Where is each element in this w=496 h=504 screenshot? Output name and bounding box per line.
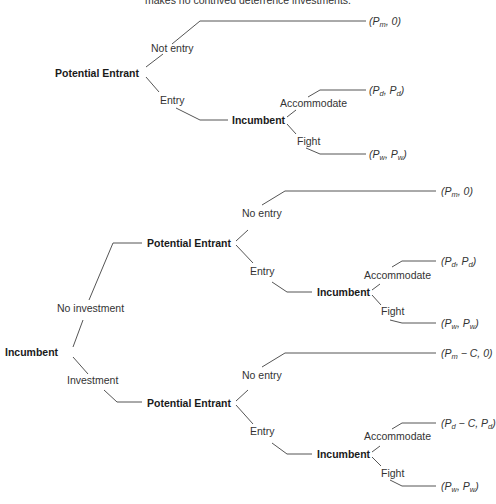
label-entry: Entry bbox=[160, 94, 185, 106]
node-potential-entrant-inv: Potential Entrant bbox=[147, 397, 231, 409]
game-tree-figure: makes no contrived deterrence investment… bbox=[0, 0, 496, 504]
payoff-fight-inv: (Pw, Pw) bbox=[441, 480, 479, 496]
payoff-fight-noinv: (Pw, Pw) bbox=[441, 317, 479, 333]
payoff-accommodate-noinv: (Pd, Pd) bbox=[441, 255, 476, 271]
payoff-no-entry-inv: (Pm − C, 0) bbox=[441, 347, 493, 363]
node-incumbent-noinv: Incumbent bbox=[317, 286, 370, 298]
label-no-entry-noinv: No entry bbox=[242, 207, 282, 219]
label-accommodate-inv: Accommodate bbox=[364, 430, 431, 442]
payoff-accommodate: (Pd, Pd) bbox=[369, 84, 404, 100]
edge-entry bbox=[146, 77, 228, 120]
edge-no-investment bbox=[73, 243, 142, 347]
label-investment: Investment bbox=[67, 374, 118, 386]
payoff-no-entry-noinv: (Pm, 0) bbox=[441, 185, 473, 201]
label-fight: Fight bbox=[297, 135, 320, 147]
node-incumbent-top: Incumbent bbox=[232, 114, 285, 126]
label-no-investment: No investment bbox=[57, 302, 124, 314]
label-accommodate: Accommodate bbox=[280, 97, 347, 109]
payoff-fight: (Pw, Pw) bbox=[369, 148, 407, 164]
label-not-entry: Not entry bbox=[151, 42, 194, 54]
node-incumbent-root: Incumbent bbox=[5, 346, 58, 358]
label-fight-noinv: Fight bbox=[381, 305, 404, 317]
node-potential-entrant-top: Potential Entrant bbox=[55, 67, 139, 79]
label-no-entry-inv: No entry bbox=[242, 369, 282, 381]
node-incumbent-inv: Incumbent bbox=[317, 448, 370, 460]
label-entry-inv: Entry bbox=[250, 425, 275, 437]
payoff-accommodate-inv: (Pd − C, Pd) bbox=[441, 417, 496, 433]
label-fight-inv: Fight bbox=[381, 467, 404, 479]
payoff-not-entry: (Pm, 0) bbox=[369, 15, 401, 31]
label-entry-noinv: Entry bbox=[250, 265, 275, 277]
node-potential-entrant-noinv: Potential Entrant bbox=[147, 237, 231, 249]
label-accommodate-noinv: Accommodate bbox=[364, 269, 431, 281]
